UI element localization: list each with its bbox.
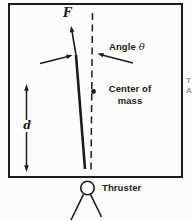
center-of-mass-label: Center of mass: [106, 83, 154, 106]
thruster-label: Thruster: [102, 182, 141, 193]
center-of-mass-dot: [91, 89, 96, 94]
clipped-edge-text-line1: T: [186, 76, 192, 86]
distance-arrowhead-bottom-icon: [24, 165, 29, 172]
diagram-canvas: [0, 0, 192, 221]
distance-label: d: [20, 120, 34, 132]
thruster-pivot-circle: [81, 181, 95, 195]
force-arrowhead-icon: [70, 26, 75, 32]
rocket-axis-rod: [76, 55, 85, 169]
clipped-edge-text: T A: [186, 76, 192, 96]
angle-pointer-right-shaft: [103, 55, 133, 63]
angle-pointer-left-shaft: [40, 57, 68, 64]
clipped-edge-text-line2: A: [186, 86, 192, 96]
angle-label-word: Angle: [109, 41, 136, 52]
force-label: F: [63, 6, 72, 20]
force-vector-shaft: [72, 30, 76, 55]
theta-symbol: θ: [139, 41, 145, 52]
distance-arrowhead-top-icon: [24, 84, 29, 91]
figure-thruster-diagram: F Angle θ Center of mass d Thruster T A: [0, 0, 192, 221]
center-of-mass-label-line2: mass: [106, 95, 154, 107]
angle-label: Angle θ: [109, 41, 145, 52]
angle-pointer-right-arrowhead-icon: [98, 53, 104, 57]
center-of-mass-label-line1: Center of: [106, 83, 154, 95]
thruster-leg-right: [91, 194, 102, 217]
angle-pointer-left-arrowhead-icon: [66, 55, 72, 59]
thruster-leg-left: [71, 194, 84, 220]
